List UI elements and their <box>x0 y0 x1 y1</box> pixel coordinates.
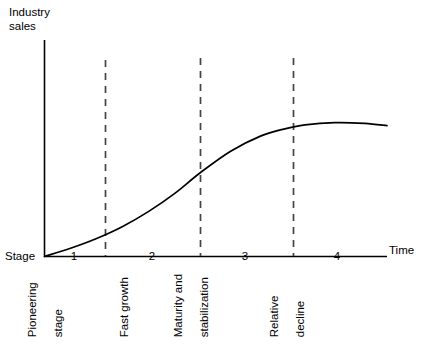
stage-caption-3: Maturity and stabilization <box>159 274 224 350</box>
stage-caption-3-line-1: Maturity and <box>172 274 184 337</box>
industry-sales-curve <box>45 123 388 257</box>
stage-caption-3-line-2: stabilization <box>198 277 210 337</box>
stage-caption-4: Relative decline <box>255 296 320 350</box>
stage-caption-4-line-2: decline <box>294 301 306 337</box>
x-axis-label: Time <box>389 244 414 258</box>
stage-caption-4-line-1: Relative <box>268 296 280 338</box>
stage-caption-2: Fast growth <box>105 277 144 350</box>
stage-caption-1: Pioneering stage <box>13 282 78 350</box>
stage-caption-1-line-1: Pioneering <box>26 282 38 337</box>
y-axis-label-line-1: Industry <box>9 6 50 18</box>
stage-caption-1-line-2: stage <box>52 309 64 337</box>
stage-number-4: 4 <box>327 250 347 262</box>
y-axis-label: Industrysales <box>9 6 50 33</box>
stage-axis-origin-label: Stage <box>5 250 35 264</box>
stage-number-2: 2 <box>142 250 162 262</box>
stage-number-3: 3 <box>235 250 255 262</box>
stage-caption-2-line-1: Fast growth <box>118 277 130 337</box>
industry-sales-lifecycle-chart: Industrysales Time Stage 1 2 3 4 Pioneer… <box>0 0 429 354</box>
stage-number-1: 1 <box>64 250 84 262</box>
y-axis-label-line-2: sales <box>9 20 36 32</box>
